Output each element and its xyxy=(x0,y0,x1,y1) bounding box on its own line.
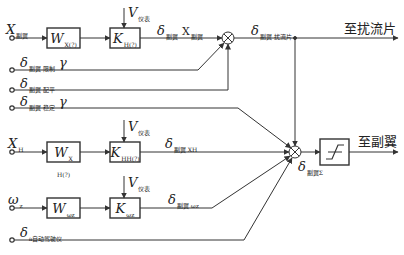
label-delta-xh: δ副翼 XH xyxy=(165,137,197,153)
block-w-row3: Wωz xyxy=(47,202,80,218)
label-delta-limit: δ副翼 限制 γ xyxy=(20,56,67,72)
label-x-h: XH xyxy=(8,137,24,153)
block-k-row2: KHH(?) xyxy=(110,146,140,162)
label-v-row3: V仪表 xyxy=(128,176,150,192)
input-terminal-delta-stab xyxy=(10,106,14,110)
input-terminal-delta-limit xyxy=(10,68,14,72)
label-delta-stab: δ副翼 稳定 γ xyxy=(20,95,67,111)
label-omega-z: ωz xyxy=(8,193,23,209)
summing-junction-1 xyxy=(222,32,234,44)
input-terminal-delta-auto xyxy=(10,238,14,242)
label-delta-sum: δ副翼Σ xyxy=(298,160,323,176)
block-w-row1: WX(?) xyxy=(47,32,80,48)
label-v-row2: V仪表 xyxy=(128,120,150,136)
control-law-diagram: X副翼 δ副翼 限制 γ δ副翼 配平 δ副翼 稳定 γ XH ωz δa自动驾… xyxy=(0,0,404,255)
label-delta-trim: δ副翼 配平 xyxy=(20,77,55,93)
label-delta-omega: δ副翼 ωz xyxy=(168,193,199,209)
label-delta-x: δ副翼 X副翼 xyxy=(157,24,203,40)
label-x-aileron: X副翼 xyxy=(6,23,28,39)
label-delta-auto: δa自动驾驶仪 xyxy=(20,226,62,242)
label-delta-spoiler: δ副翼 扰流片 xyxy=(251,24,292,40)
block-k-row3: Kωz xyxy=(110,202,140,218)
input-terminal-delta-trim xyxy=(10,88,14,92)
block-w-row2: WX H(?) xyxy=(47,146,80,178)
label-v-row1: V仪表 xyxy=(128,6,150,22)
output-to-aileron: 至副翼 xyxy=(358,135,397,148)
output-to-spoiler: 至扰流片 xyxy=(344,22,396,35)
block-k-row1: KH(?) xyxy=(110,32,140,48)
